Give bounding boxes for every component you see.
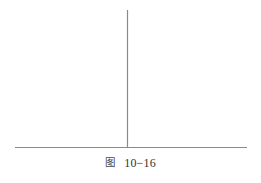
figure-container: 图10−16 <box>0 0 261 183</box>
plot-area <box>0 0 261 151</box>
figure-caption: 图10−16 <box>0 154 261 171</box>
figure-caption-label: 图 <box>105 156 115 168</box>
figure-caption-number: 10−16 <box>124 156 156 170</box>
axis-drawing <box>0 0 261 151</box>
